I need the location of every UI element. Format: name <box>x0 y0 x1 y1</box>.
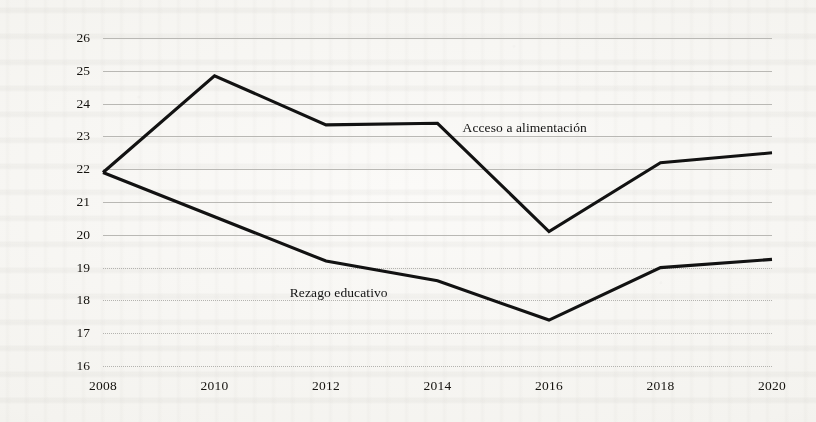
y-axis-tick-label: 18 <box>77 292 91 308</box>
series-label: Rezago educativo <box>290 285 388 301</box>
x-axis-tick-label: 2008 <box>89 378 117 394</box>
y-axis-title: Proporción de población total <box>26 0 48 60</box>
x-axis-tick-label: 2012 <box>312 378 340 394</box>
x-axis-tick-label: 2018 <box>647 378 675 394</box>
x-axis-tick-label: 2016 <box>535 378 563 394</box>
gridline <box>103 366 772 367</box>
y-axis-tick-label: 25 <box>77 63 91 79</box>
y-axis-tick-label: 26 <box>77 30 91 46</box>
line-chart-figure: Proporción de población total 1617181920… <box>0 0 816 422</box>
series-line <box>103 172 772 320</box>
y-axis-tick-label: 17 <box>77 325 91 341</box>
x-axis-tick-label: 2010 <box>201 378 229 394</box>
series-line <box>103 76 772 232</box>
y-axis-tick-label: 16 <box>77 358 91 374</box>
y-axis-tick-label: 22 <box>77 161 91 177</box>
y-axis-tick-label: 23 <box>77 128 91 144</box>
series-label: Acceso a alimentación <box>463 120 587 136</box>
y-axis-tick-label: 21 <box>77 194 91 210</box>
series-lines <box>103 38 772 366</box>
y-axis-tick-label: 20 <box>77 227 91 243</box>
x-axis-tick-label: 2020 <box>758 378 786 394</box>
plot-area: 1617181920212223242526 20082010201220142… <box>103 38 772 366</box>
y-axis-tick-label: 24 <box>77 96 91 112</box>
y-axis-tick-label: 19 <box>77 260 91 276</box>
x-axis-tick-label: 2014 <box>424 378 452 394</box>
scanned-page: Proporción de población total 1617181920… <box>0 0 816 422</box>
